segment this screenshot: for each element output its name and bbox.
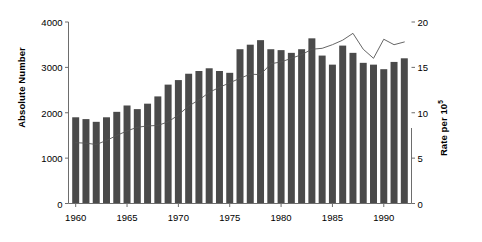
- bar: [319, 56, 326, 204]
- bar: [206, 68, 213, 203]
- bar: [360, 63, 367, 204]
- bar: [257, 40, 264, 203]
- plot-area: [0, 0, 482, 242]
- bar: [247, 45, 254, 204]
- y-axis-left-tick-label: 3000: [29, 62, 63, 73]
- bar: [339, 46, 346, 204]
- x-axis-tick-label: 1965: [107, 212, 147, 223]
- y-axis-left-ticks: [65, 22, 69, 204]
- bar: [82, 119, 89, 203]
- bar: [391, 62, 398, 204]
- chart-figure: Absolute Number Rate per 105 01000200030…: [0, 0, 482, 242]
- bar: [144, 104, 151, 204]
- y-axis-right-tick-label: 10: [418, 107, 440, 118]
- bar: [349, 53, 356, 204]
- x-axis-tick-label: 1970: [158, 212, 198, 223]
- bar: [401, 58, 408, 203]
- bar: [185, 74, 192, 204]
- bar: [278, 50, 285, 203]
- bar: [216, 71, 223, 204]
- bar: [154, 96, 161, 203]
- bar: [93, 122, 100, 204]
- x-axis-tick-label: 1985: [312, 212, 352, 223]
- bar: [237, 49, 244, 203]
- bar: [165, 85, 172, 204]
- bar: [103, 117, 110, 203]
- bar: [226, 73, 233, 204]
- bar: [370, 65, 377, 204]
- bar: [288, 53, 295, 204]
- bar-series: [72, 38, 408, 203]
- bar: [329, 65, 336, 204]
- bar: [298, 49, 305, 203]
- bar: [195, 71, 202, 204]
- y-axis-right-ticks: [412, 22, 416, 204]
- x-axis-tick-label: 1975: [210, 212, 250, 223]
- bar: [113, 112, 120, 204]
- bar: [267, 49, 274, 203]
- y-axis-left-tick-label: 2000: [29, 107, 63, 118]
- bar: [72, 117, 79, 203]
- y-axis-left-tick-label: 0: [29, 198, 63, 209]
- y-axis-left-tick-label: 4000: [29, 17, 63, 28]
- bar: [134, 109, 141, 203]
- bar: [380, 69, 387, 203]
- x-axis-ticks: [76, 204, 384, 208]
- x-axis-tick-label: 1990: [364, 212, 404, 223]
- x-axis-tick-label: 1960: [56, 212, 96, 223]
- y-axis-right-tick-label: 15: [418, 62, 440, 73]
- bar: [308, 38, 315, 203]
- y-axis-right-tick-label: 5: [418, 153, 440, 164]
- x-axis-tick-label: 1980: [261, 212, 301, 223]
- y-axis-right-tick-label: 20: [418, 17, 440, 28]
- y-axis-right-tick-label: 0: [418, 198, 440, 209]
- bar: [124, 105, 131, 203]
- y-axis-left-tick-label: 1000: [29, 153, 63, 164]
- bar: [175, 80, 182, 203]
